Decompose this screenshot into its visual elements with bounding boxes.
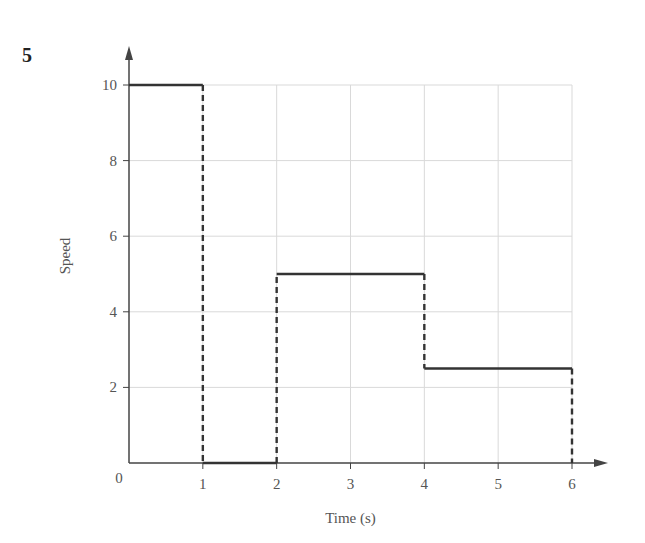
x-tick-label: 1 [199, 476, 207, 492]
y-axis-title: Speed [57, 237, 73, 274]
y-tick-label: 8 [110, 153, 118, 169]
x-tick-label: 5 [494, 476, 502, 492]
x-axis-title: Time (s) [325, 510, 376, 527]
x-axis-arrow-icon [594, 459, 608, 467]
x-tick-label: 6 [568, 476, 576, 492]
y-tick-label: 10 [102, 77, 117, 93]
y-tick-label: 4 [110, 304, 118, 320]
y-tick-label: 6 [110, 228, 118, 244]
y-axis-arrow-icon [125, 46, 133, 60]
origin-label: 0 [115, 470, 123, 486]
y-tick-label: 2 [110, 379, 118, 395]
x-tick-label: 3 [347, 476, 355, 492]
x-tick-label: 4 [421, 476, 429, 492]
x-tick-label: 2 [273, 476, 281, 492]
speed-time-chart: 1234562468100Time (s)Speed [0, 0, 645, 543]
